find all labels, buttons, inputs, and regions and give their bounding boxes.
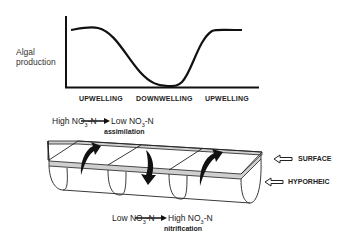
x-category-upwelling-right: UPWELLING bbox=[205, 95, 249, 102]
hyporheic-pointer-arrow bbox=[265, 178, 283, 186]
upwelling-arrow-left bbox=[81, 142, 101, 175]
assimilation-product-label: Low NO3-N bbox=[111, 116, 154, 128]
x-category-downwelling: DOWNWELLING bbox=[136, 95, 193, 102]
y-axis-label: Algal production bbox=[16, 47, 56, 67]
y-axis-label-line2: production bbox=[16, 57, 56, 67]
stream-channel-diagram bbox=[48, 141, 262, 203]
nitrification-product-label: High NO3-N bbox=[168, 213, 213, 225]
surface-zone-label: SURFACE bbox=[298, 155, 331, 162]
nitrification-label: nitrification bbox=[164, 225, 202, 232]
surface-pointer-arrow bbox=[274, 155, 292, 163]
nitrification-source-label: Low NO3-N bbox=[112, 213, 155, 225]
assimilation-source-label: High NO3-N bbox=[52, 116, 97, 128]
y-axis-label-line1: Algal bbox=[16, 47, 56, 57]
upwelling-arrow-right bbox=[200, 149, 223, 186]
x-category-upwelling-left: UPWELLING bbox=[79, 95, 123, 102]
algal-production-curve bbox=[71, 27, 242, 86]
assimilation-label: assimilation bbox=[104, 128, 144, 135]
hyporheic-zone-label: HYPORHEIC bbox=[288, 178, 330, 185]
